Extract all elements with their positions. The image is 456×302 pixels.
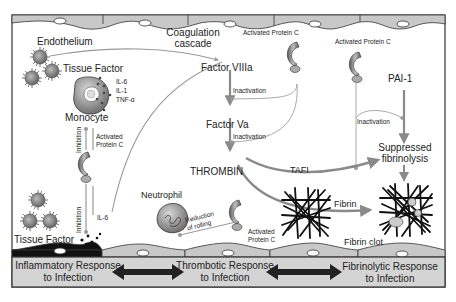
inactivation-3-label: Inactivation (357, 119, 390, 126)
endothelium-label: Endothelium (37, 37, 93, 48)
apc-left-label: Activated Protein C (96, 133, 123, 150)
factor-viiia-label: Factor VIIIa (201, 63, 253, 74)
monocyte-label: Monocyte (65, 113, 108, 124)
fibrinolytic-response-label: Fibrinolytic Response to Infection (334, 261, 446, 284)
coagulation-line1: Coagulation (157, 28, 229, 39)
inflammatory-response-label: Inflammatory Response to Infection (12, 260, 124, 283)
apc-left-line2: Protein C (96, 141, 123, 149)
tafi-label: TAFI (290, 166, 309, 175)
cytokine-list: IL-6 IL-1 TNF-α (116, 78, 135, 104)
inhibition-upper-label: Inhibition (76, 127, 83, 153)
factor-va-label: Factor Va (206, 120, 249, 131)
cytokine-tnf: TNF-α (116, 96, 135, 105)
tissue-factor-bottom-label: Tissue Factor (14, 235, 74, 246)
suppressed-fibrinolysis-label: Suppressed fibrinolysis (372, 143, 438, 164)
apc-top-center-label: Activated Protein C (243, 30, 299, 37)
thrombin-label: THROMBIN (190, 167, 243, 178)
sepsis-pathway-diagram: Endothelium Coagulation cascade Tissue F… (0, 0, 456, 302)
apc-left-line1: Activated (96, 133, 123, 141)
apc-bottom-line2: Protein C (248, 236, 275, 244)
fibrinolytic-line2: to Infection (334, 273, 446, 285)
inflammatory-line1: Inflammatory Response (12, 260, 124, 272)
thrombotic-response-label: Thrombotic Response to Infection (172, 260, 278, 283)
inactivation-1-label: Inactivation (233, 88, 266, 95)
coagulation-line2: cascade (157, 39, 229, 50)
apc-top-right-label: Activated Protein C (335, 39, 391, 46)
inactivation-2-label: Inactivation (233, 134, 266, 141)
apc-bottom-line1: Activated (248, 228, 275, 236)
fibrin-clot-label: Fibrin clot (344, 238, 383, 247)
pai1-label: PAI-1 (388, 74, 412, 85)
inflammatory-line2: to Infection (12, 272, 124, 284)
apc-bottom-label: Activated Protein C (248, 228, 275, 245)
thrombotic-line2: to Infection (172, 272, 278, 284)
thrombotic-line1: Thrombotic Response (172, 260, 278, 272)
fibrin-label: Fibrin (334, 200, 357, 209)
suppressed-line2: fibrinolysis (372, 154, 438, 165)
cytokine-il6: IL-6 (116, 78, 135, 87)
fibrinolytic-line1: Fibrinolytic Response (334, 261, 446, 273)
suppressed-line1: Suppressed (372, 143, 438, 154)
neutrophil-label: Neutrophil (141, 191, 182, 200)
neutrophil (157, 203, 188, 232)
il6-label: IL-6 (97, 215, 108, 222)
inhibition-lower-label: Inhibition (76, 207, 83, 233)
tissue-factor-top-label: Tissue Factor (63, 64, 123, 75)
coagulation-cascade-label: Coagulation cascade (157, 28, 229, 49)
cytokine-il1: IL-1 (116, 87, 135, 96)
